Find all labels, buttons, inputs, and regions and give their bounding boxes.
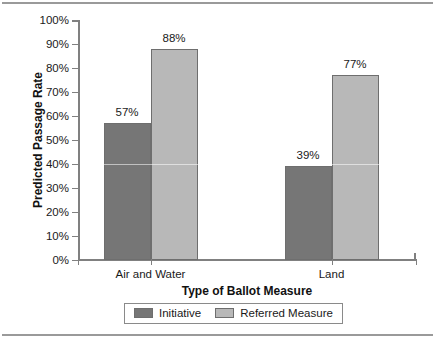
y-tick-mark [72, 164, 78, 165]
y-tick-mark [72, 44, 78, 45]
bar-value-label: 77% [343, 58, 366, 70]
y-tick-mark [72, 20, 78, 21]
y-tick-label: 60% [46, 110, 69, 122]
y-tick-label: 40% [46, 158, 69, 170]
legend-label-initiative: Initiative [159, 307, 201, 319]
y-tick-mark [72, 92, 78, 93]
x-tick-mark [332, 259, 333, 265]
plot-area: Predicted Passage Rate 0%10%20%30%40%50%… [78, 20, 416, 260]
bar [104, 123, 151, 260]
y-tick-label: 0% [52, 254, 69, 266]
legend-item-referred-measure: Referred Measure [215, 307, 333, 319]
y-tick-label: 80% [46, 62, 69, 74]
bar [332, 75, 379, 260]
y-tick-mark [72, 116, 78, 117]
page-rule-bottom [2, 334, 433, 336]
y-tick-label: 10% [46, 230, 69, 242]
y-tick-mark [72, 212, 78, 213]
y-tick-label: 30% [46, 182, 69, 194]
legend-label-referred-measure: Referred Measure [240, 307, 333, 319]
legend-item-initiative: Initiative [134, 307, 201, 319]
y-tick-label: 20% [46, 206, 69, 218]
legend-swatch-referred-measure [215, 308, 234, 318]
y-tick-label: 90% [46, 38, 69, 50]
page-rule-top [2, 2, 433, 4]
legend-swatch-initiative [134, 308, 153, 318]
y-tick-label: 70% [46, 86, 69, 98]
bar [285, 166, 332, 260]
x-tick-label: Land [319, 268, 345, 280]
x-axis-title: Type of Ballot Measure [78, 284, 416, 298]
x-axis-boundary-tick [416, 259, 417, 265]
x-tick-mark [151, 259, 152, 265]
y-tick-mark [72, 140, 78, 141]
y-tick-label: 100% [40, 14, 69, 26]
chart-legend: Initiative Referred Measure [124, 303, 343, 324]
y-tick-mark [72, 236, 78, 237]
bar-value-label: 57% [115, 106, 138, 118]
y-axis-title: Predicted Passage Rate [31, 72, 45, 208]
bar-value-label: 88% [162, 32, 185, 44]
y-tick-label: 50% [46, 134, 69, 146]
x-tick-label: Air and Water [116, 268, 186, 280]
bar [151, 49, 198, 260]
y-tick-mark [72, 188, 78, 189]
chart-figure: Predicted Passage Rate 0%10%20%30%40%50%… [0, 0, 435, 344]
x-axis-boundary-tick [78, 259, 79, 265]
bar-value-label: 39% [296, 149, 319, 161]
y-tick-mark [72, 68, 78, 69]
